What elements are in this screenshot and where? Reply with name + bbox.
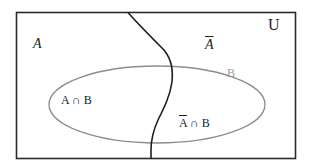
a-complement-intersect-b-label: A ∩ B [179, 117, 210, 129]
set-a-complement-label: A [205, 38, 214, 52]
a-complement-part: A [179, 116, 187, 130]
a-intersect-b-label: A ∩ B [61, 94, 92, 106]
universe-rectangle [17, 13, 296, 159]
universe-label: U [268, 17, 280, 33]
intersect-b-part: ∩ B [187, 116, 210, 130]
set-a-label: A [33, 37, 42, 51]
set-b-label: B [227, 67, 235, 79]
venn-diagram [0, 0, 311, 167]
